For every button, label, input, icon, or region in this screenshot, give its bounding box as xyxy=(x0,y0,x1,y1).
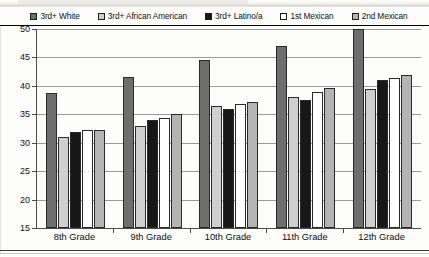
legend-label: 1st Mexican xyxy=(290,12,333,21)
x-axis-label: 12th Grade xyxy=(343,230,420,246)
x-axis-labels: 8th Grade9th Grade10th Grade11th Grade12… xyxy=(36,230,420,246)
bar-group xyxy=(267,29,344,228)
x-axis-label: 11th Grade xyxy=(266,230,343,246)
bar-groups xyxy=(37,29,421,228)
legend-item-5[interactable]: 2nd Mexican xyxy=(352,12,408,21)
footer-rule xyxy=(0,250,429,251)
page-left-edge xyxy=(0,25,1,253)
bar-group xyxy=(37,29,114,228)
y-axis-label: 15 xyxy=(20,223,30,233)
legend-swatch-icon xyxy=(98,13,105,20)
bar[interactable] xyxy=(300,100,311,228)
bar[interactable] xyxy=(123,77,134,228)
legend-label: 2nd Mexican xyxy=(362,12,408,21)
bar-group xyxy=(114,29,191,228)
bar[interactable] xyxy=(147,120,158,228)
bar[interactable] xyxy=(159,118,170,228)
bar[interactable] xyxy=(324,88,335,228)
legend-label: 3rd+ African American xyxy=(108,12,187,21)
y-axis-label: 20 xyxy=(20,195,30,205)
bar[interactable] xyxy=(288,97,299,228)
legend-swatch-icon xyxy=(280,13,287,20)
bar[interactable] xyxy=(247,102,258,228)
y-axis-label: 50 xyxy=(20,24,30,34)
bar[interactable] xyxy=(223,109,234,228)
bar[interactable] xyxy=(312,92,323,228)
legend-swatch-icon xyxy=(352,13,359,20)
y-axis-label: 30 xyxy=(20,138,30,148)
y-axis-label: 40 xyxy=(20,81,30,91)
bar[interactable] xyxy=(94,130,105,228)
x-axis-label: 9th Grade xyxy=(113,230,190,246)
bar[interactable] xyxy=(171,114,182,228)
legend-swatch-icon xyxy=(30,13,37,20)
bar[interactable] xyxy=(276,46,287,228)
x-axis-label: 8th Grade xyxy=(36,230,113,246)
bar[interactable] xyxy=(58,137,69,228)
bar[interactable] xyxy=(82,130,93,228)
legend-item-2[interactable]: 3rd+ African American xyxy=(98,12,187,21)
legend-swatch-icon xyxy=(205,13,212,20)
scan-artifact-ghost-text xyxy=(18,0,248,6)
x-axis-tick xyxy=(343,229,344,233)
x-axis-tick xyxy=(190,229,191,233)
bar[interactable] xyxy=(353,29,364,228)
bar-chart: 3rd+ White3rd+ African American3rd+ Lati… xyxy=(0,0,429,257)
plot-area: 5045403530252015 xyxy=(36,29,421,229)
legend-label: 3rd+ Latino/a xyxy=(215,12,262,21)
bar[interactable] xyxy=(401,75,412,229)
bar[interactable] xyxy=(365,89,376,228)
bar[interactable] xyxy=(389,78,400,228)
legend-item-4[interactable]: 1st Mexican xyxy=(280,12,333,21)
legend-item-3[interactable]: 3rd+ Latino/a xyxy=(205,12,262,21)
bar[interactable] xyxy=(377,80,388,228)
footer-rule-secondary xyxy=(0,253,429,254)
legend-label: 3rd+ White xyxy=(40,12,79,21)
x-axis-tick xyxy=(113,229,114,233)
x-axis-tick xyxy=(266,229,267,233)
y-axis-label: 45 xyxy=(20,52,30,62)
bar[interactable] xyxy=(135,126,146,228)
bar[interactable] xyxy=(70,132,81,228)
bar[interactable] xyxy=(211,106,222,228)
x-axis-baseline xyxy=(36,228,421,229)
legend-item-1[interactable]: 3rd+ White xyxy=(30,12,79,21)
chart-legend: 3rd+ White3rd+ African American3rd+ Lati… xyxy=(0,7,429,26)
y-axis-label: 25 xyxy=(20,166,30,176)
bar-group xyxy=(191,29,268,228)
bar-group xyxy=(344,29,421,228)
bar[interactable] xyxy=(199,60,210,228)
y-axis-label: 35 xyxy=(20,109,30,119)
bar[interactable] xyxy=(235,104,246,228)
bar[interactable] xyxy=(46,93,57,228)
x-axis-label: 10th Grade xyxy=(190,230,267,246)
